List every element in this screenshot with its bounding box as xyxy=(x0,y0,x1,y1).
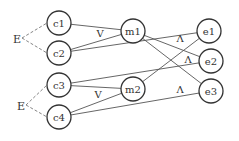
edge-c3-m2 xyxy=(71,86,121,89)
node-e3: e3 xyxy=(199,79,223,103)
node-e2: e2 xyxy=(199,49,223,73)
node-c4: c4 xyxy=(47,105,71,129)
node-label: m2 xyxy=(125,84,141,95)
diagram-canvas: EE VVΛΛΛ c1c2c3c4m1m2e1e2e3 xyxy=(0,0,239,141)
operator-symbol: V xyxy=(95,28,104,39)
group-brackets: EE xyxy=(13,23,47,117)
node-m1: m1 xyxy=(121,19,145,43)
node-label: c3 xyxy=(53,80,65,91)
group-label: E xyxy=(13,33,21,46)
node-c1: c1 xyxy=(47,11,71,35)
node-label: c2 xyxy=(53,48,65,59)
operator-symbol: Λ xyxy=(175,84,184,95)
node-e1: e1 xyxy=(197,19,221,43)
operator-symbol: Λ xyxy=(183,54,192,65)
group-bracket-line xyxy=(22,38,47,53)
node-label: c4 xyxy=(53,112,65,123)
node-label: m1 xyxy=(125,26,141,37)
group-bracket-line xyxy=(26,105,47,117)
operator-symbol: V xyxy=(93,89,102,100)
group-bracket-line xyxy=(26,85,47,105)
node-c3: c3 xyxy=(47,73,71,97)
node-label: e1 xyxy=(203,26,215,37)
node-label: e2 xyxy=(205,56,217,67)
node-m2: m2 xyxy=(121,77,145,101)
node-c2: c2 xyxy=(47,41,71,65)
edge-m1-e3 xyxy=(143,38,202,83)
group-label: E xyxy=(17,100,25,113)
operator-symbol: Λ xyxy=(175,33,184,44)
node-label: c1 xyxy=(53,18,65,29)
node-label: e3 xyxy=(205,86,217,97)
group-bracket-line xyxy=(22,23,47,38)
